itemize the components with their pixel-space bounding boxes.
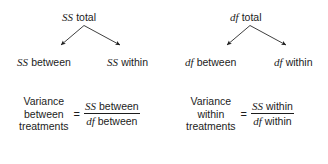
variance-within-label: Variance within treatments [186,95,236,133]
variance-within-numerator-symbol: SS [252,100,263,112]
variance-within-line3: treatments [186,120,236,133]
df-total-symbol: df [230,11,239,23]
variance-between-denominator: df between [85,114,138,127]
variance-within-line1: Variance [186,95,236,108]
variance-within-fraction: SS within df within [251,100,294,127]
ss-between-node: SS between [17,56,71,68]
df-between-symbol: df [185,56,194,68]
variance-between-line2: between [19,108,69,121]
df-tree-arrow-right [250,26,286,46]
ss-between-word: between [31,56,71,68]
df-within-word: within [286,56,313,68]
variance-between-numerator-symbol: SS [85,100,96,112]
variance-within-numerator-word: within [266,100,293,112]
df-between-node: df between [185,56,236,68]
variance-between-line3: treatments [19,120,69,133]
variance-within-formula: Variance within treatments = SS within d… [186,95,294,133]
variance-within-denominator: df within [252,114,292,127]
variance-between-label: Variance between treatments [19,95,69,133]
ss-within-node: SS within [107,56,148,68]
variance-between-formula: Variance between treatments = SS between… [19,95,140,133]
ss-total-symbol: SS [62,11,73,23]
ss-tree-arrow-left [61,26,84,46]
variance-between-denominator-word: between [98,115,138,127]
variance-between-numerator: SS between [84,100,140,113]
variance-between-numerator-word: between [99,100,139,112]
df-total-node: df total [230,11,262,23]
df-within-symbol: df [274,56,283,68]
ss-total-node: SS total [62,11,96,23]
variance-within-equals: = [241,108,247,120]
variance-within-line2: within [186,108,236,121]
variance-between-denominator-symbol: df [86,115,95,127]
ss-within-word: within [121,56,148,68]
variance-between-line1: Variance [19,95,69,108]
df-between-word: between [197,56,237,68]
variance-between-fraction: SS between df between [84,100,140,127]
anova-partition-diagram: SS total SS between SS within df total d… [0,0,328,164]
df-within-node: df within [274,56,313,68]
tree-arrows-svg [0,0,328,164]
variance-between-equals: = [74,108,80,120]
variance-within-numerator: SS within [251,100,294,113]
ss-total-word: total [76,11,96,23]
df-tree-arrow-left [227,26,250,46]
ss-between-symbol: SS [17,56,28,68]
variance-within-denominator-word: within [265,115,292,127]
ss-tree-arrow-right [84,26,120,46]
df-total-word: total [242,11,262,23]
ss-within-symbol: SS [107,56,118,68]
variance-within-denominator-symbol: df [253,115,262,127]
